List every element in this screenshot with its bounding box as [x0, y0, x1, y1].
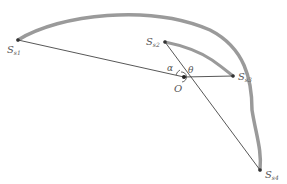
outer-arc	[18, 15, 260, 170]
segment-o-s3	[184, 76, 233, 77]
inner-arc	[165, 42, 233, 76]
geometry-diagram: Ss1 Ss2 Ss3 Ss4 O α θ	[0, 0, 287, 184]
point-o	[182, 75, 186, 79]
point-s4	[258, 168, 262, 172]
point-s1	[16, 38, 20, 42]
label-s3: Ss3	[238, 71, 252, 83]
label-theta: θ	[188, 65, 194, 75]
point-s3	[231, 74, 235, 78]
angle-alpha-arc	[176, 70, 180, 75]
label-s4: Ss4	[265, 169, 279, 181]
label-s2: Ss2	[146, 36, 160, 48]
label-s1: Ss1	[7, 44, 21, 56]
label-origin: O	[174, 83, 182, 94]
label-alpha: α	[167, 63, 173, 73]
point-s2	[163, 40, 167, 44]
